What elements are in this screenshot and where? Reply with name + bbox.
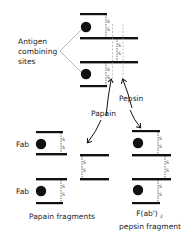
light-chain-bottom [80, 85, 107, 87]
fab2-bar [132, 178, 171, 180]
fab2-bar [132, 130, 160, 132]
s-label: S [83, 168, 86, 173]
papain-fragments-caption: Papain fragments [29, 212, 95, 221]
s-label: S [107, 19, 110, 24]
fab-label: Fab [16, 187, 29, 196]
fab-label: Fab [16, 140, 29, 149]
antigen-site-circle [36, 186, 46, 196]
s-label: S [107, 27, 110, 32]
antigen-site-circle [133, 185, 143, 195]
fc-bar [80, 154, 109, 156]
s-label: S [83, 160, 86, 165]
fc-fragment: S S [80, 154, 109, 180]
antigen-label: combining [18, 47, 57, 56]
s-label: S [107, 67, 110, 72]
s-label: S [159, 136, 162, 141]
fab-bar [36, 202, 63, 204]
s-label: S [107, 75, 110, 80]
s-label: S [62, 145, 65, 150]
antibody-diagram: S S S S S S Antigen combining sites Papa… [0, 0, 189, 242]
s-label: S [159, 184, 162, 189]
fab-fragment-top: S S Fab [16, 131, 67, 155]
antigen-site-circle [81, 69, 91, 79]
fab2-bar [132, 202, 160, 204]
fc-bar [80, 178, 109, 180]
pepsin-arrow-down-icon [130, 110, 140, 127]
fab2-subscript: 2 [160, 214, 163, 219]
antigen-label: Antigen [18, 37, 47, 46]
s-label: S [166, 160, 169, 165]
pepsin-fragment-caption: pepsin fragment [119, 222, 181, 231]
fab2-caption: F(ab') [136, 209, 158, 218]
fab-fragment-bottom: S S Fab [16, 178, 67, 204]
whole-antibody: S S S S S S [80, 13, 138, 87]
s-label: S [118, 51, 121, 56]
fab-bar [36, 178, 67, 180]
s-label: S [62, 192, 65, 197]
s-label: S [62, 184, 65, 189]
s-label: S [166, 168, 169, 173]
heavy-chain-bottom [80, 61, 138, 63]
heavy-chain-top [80, 37, 138, 39]
diagram-svg: S S S S S S Antigen combining sites Papa… [0, 0, 189, 242]
s-label: S [62, 137, 65, 142]
fab-bar [36, 153, 67, 155]
s-label: S [118, 43, 121, 48]
antigen-pointer-lines [60, 30, 81, 72]
pepsin-label: Pepsin [119, 94, 144, 103]
papain-arrow-down-icon [88, 120, 101, 142]
fab2-fragment: S S S S S S [132, 130, 171, 204]
antigen-site-circle [36, 139, 46, 149]
antigen-site-circle [81, 22, 91, 32]
antigen-label: sites [18, 57, 36, 66]
antigen-site-circle [133, 138, 143, 148]
light-chain-top [80, 13, 107, 15]
fab-bar [36, 131, 63, 133]
papain-label: Papain [91, 109, 116, 118]
s-label: S [159, 192, 162, 197]
s-label: S [159, 144, 162, 149]
